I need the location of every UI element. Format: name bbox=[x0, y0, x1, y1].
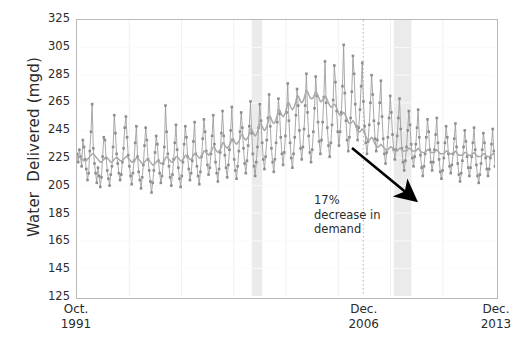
chart-root: Water Delivered (mgd) 325305285265245225… bbox=[0, 0, 526, 343]
y-tick-165: 165 bbox=[36, 233, 70, 247]
y-tick-325: 325 bbox=[36, 11, 70, 25]
x-tick-0: Oct.1991 bbox=[36, 302, 116, 332]
x-tick-2: Dec.2013 bbox=[456, 302, 526, 332]
x-tick-year: 1991 bbox=[36, 317, 116, 332]
y-tick-185: 185 bbox=[36, 206, 70, 220]
y-tick-265: 265 bbox=[36, 94, 70, 108]
x-tick-year: 2006 bbox=[324, 317, 404, 332]
annotation-demand-decrease: 17% decrease in demand bbox=[314, 193, 381, 237]
y-tick-285: 285 bbox=[36, 67, 70, 81]
y-tick-145: 145 bbox=[36, 261, 70, 275]
plot-area bbox=[76, 19, 498, 299]
plot-canvas bbox=[77, 20, 495, 296]
x-tick-month: Dec. bbox=[456, 302, 526, 317]
y-tick-305: 305 bbox=[36, 39, 70, 53]
x-tick-month: Dec. bbox=[324, 302, 404, 317]
y-tick-125: 125 bbox=[36, 289, 70, 303]
y-tick-225: 225 bbox=[36, 150, 70, 164]
y-tick-205: 205 bbox=[36, 178, 70, 192]
y-tick-245: 245 bbox=[36, 122, 70, 136]
x-tick-year: 2013 bbox=[456, 317, 526, 332]
y-axis-tick-labels: 325305285265245225205185165145125 bbox=[34, 0, 70, 343]
x-tick-1: Dec.2006 bbox=[324, 302, 404, 332]
x-tick-month: Oct. bbox=[36, 302, 116, 317]
